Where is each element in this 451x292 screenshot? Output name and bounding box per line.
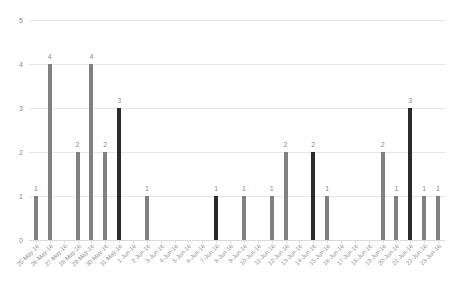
bar-value-label: 1 [214, 185, 218, 192]
bar-value-label: 1 [436, 185, 440, 192]
bar-slot: 1 [140, 20, 154, 240]
y-axis-tick-label: 4 [19, 61, 23, 68]
bar-value-label: 1 [395, 185, 399, 192]
bar-slot: 1 [209, 20, 223, 240]
plot-area: 012345 142423111122121311 [29, 20, 445, 240]
bars: 142423111122121311 [29, 20, 445, 240]
bar-slot [334, 20, 348, 240]
bar-value-label: 2 [311, 141, 315, 148]
bar-slot: 1 [320, 20, 334, 240]
bar-value-label: 1 [422, 185, 426, 192]
bar-slot: 3 [112, 20, 126, 240]
bar-value-label: 2 [76, 141, 80, 148]
bar-value-label: 2 [284, 141, 288, 148]
bar[interactable] [408, 108, 412, 240]
bar-slot [154, 20, 168, 240]
bar-slot [223, 20, 237, 240]
x-axis-labels: 25-May-1626-May-1627-May-1628-May-1629-M… [29, 243, 445, 292]
bar-slot [348, 20, 362, 240]
bar-value-label: 4 [48, 53, 52, 60]
bar[interactable] [381, 152, 385, 240]
bar-slot: 2 [279, 20, 293, 240]
bar[interactable] [214, 196, 218, 240]
bar[interactable] [242, 196, 246, 240]
bar-chart: 012345 142423111122121311 25-May-1626-Ma… [0, 0, 451, 292]
bar[interactable] [422, 196, 426, 240]
bar-value-label: 1 [325, 185, 329, 192]
bar-slot: 1 [390, 20, 404, 240]
bar[interactable] [89, 64, 93, 240]
bar-slot: 2 [306, 20, 320, 240]
bar-slot [195, 20, 209, 240]
bar[interactable] [34, 196, 38, 240]
bar-slot: 2 [376, 20, 390, 240]
bar-slot: 4 [84, 20, 98, 240]
bar[interactable] [145, 196, 149, 240]
bar-slot: 1 [265, 20, 279, 240]
bar-slot [251, 20, 265, 240]
bar-slot [126, 20, 140, 240]
bar[interactable] [270, 196, 274, 240]
bar-slot: 3 [403, 20, 417, 240]
bar[interactable] [325, 196, 329, 240]
bar-value-label: 4 [89, 53, 93, 60]
bar-value-label: 2 [103, 141, 107, 148]
bar-slot: 4 [43, 20, 57, 240]
y-axis-tick-label: 3 [19, 105, 23, 112]
bar-slot: 1 [237, 20, 251, 240]
bar-slot: 2 [98, 20, 112, 240]
bar-value-label: 3 [117, 97, 121, 104]
bar-value-label: 1 [270, 185, 274, 192]
bar-slot: 2 [71, 20, 85, 240]
bar-slot [182, 20, 196, 240]
bar-slot [362, 20, 376, 240]
bar-value-label: 1 [34, 185, 38, 192]
bar-slot: 1 [29, 20, 43, 240]
bar-slot: 1 [431, 20, 445, 240]
x-axis-label: 25-May-16 [0, 243, 40, 292]
bar[interactable] [436, 196, 440, 240]
bar-value-label: 1 [242, 185, 246, 192]
y-axis-tick-label: 0 [19, 237, 23, 244]
bar[interactable] [311, 152, 315, 240]
bar-slot [57, 20, 71, 240]
bar[interactable] [284, 152, 288, 240]
y-axis-tick-label: 1 [19, 193, 23, 200]
y-axis-tick-label: 5 [19, 17, 23, 24]
bar[interactable] [394, 196, 398, 240]
bar[interactable] [103, 152, 107, 240]
bar-slot [168, 20, 182, 240]
bar-value-label: 3 [408, 97, 412, 104]
y-axis-tick-label: 2 [19, 149, 23, 156]
bar[interactable] [117, 108, 121, 240]
bar-value-label: 1 [145, 185, 149, 192]
bar-slot: 1 [417, 20, 431, 240]
bar-value-label: 2 [381, 141, 385, 148]
bar-slot [292, 20, 306, 240]
bar[interactable] [48, 64, 52, 240]
bar[interactable] [76, 152, 80, 240]
